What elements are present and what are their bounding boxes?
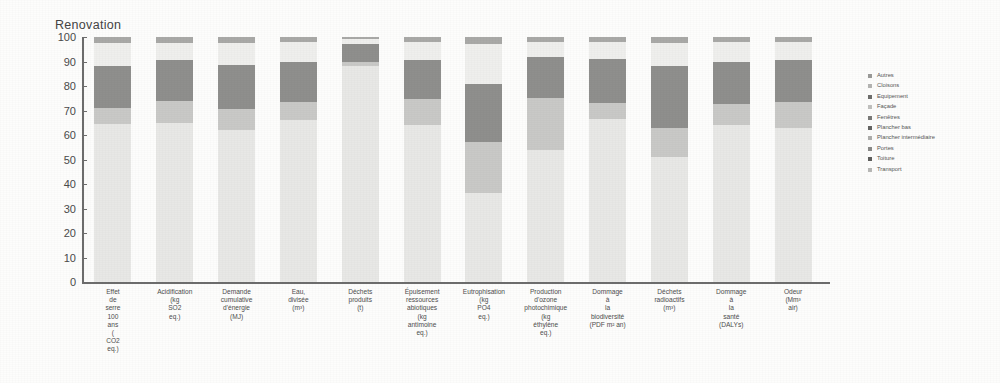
bar-segment — [342, 66, 379, 282]
y-axis-tick-mark — [82, 86, 87, 87]
x-axis-category-label: Acidification(kgSO2eq.) — [144, 288, 206, 321]
bar-segment — [775, 102, 812, 128]
bar-segment — [156, 123, 193, 282]
x-axis-line — [82, 282, 830, 284]
y-axis-tick-mark — [82, 111, 87, 112]
y-axis-tick-mark — [82, 233, 87, 234]
legend-label: Plancher intermédiaire — [877, 134, 935, 141]
y-axis-tick-mark — [82, 209, 87, 210]
x-axis-category-label: Productiond'ozonephotochimique(kgéthylèn… — [515, 288, 577, 337]
bar-slot — [82, 37, 144, 282]
bar-segment — [94, 66, 131, 108]
x-axis-category-label: Dommageàlabiodiversité(PDF m² an) — [577, 288, 639, 329]
y-axis-tick-label: 80 — [42, 80, 76, 92]
y-axis-tick-mark — [82, 62, 87, 63]
bar-segment — [94, 124, 131, 282]
bar-segment — [280, 102, 317, 120]
stacked-bar[interactable] — [342, 37, 379, 282]
stacked-bar[interactable] — [589, 37, 626, 282]
bar-slot — [268, 37, 330, 282]
bar-segment — [156, 43, 193, 60]
legend-item[interactable]: Transport — [868, 166, 996, 173]
bar-segment — [465, 193, 502, 282]
legend-label: Fenêtres — [877, 114, 900, 121]
bar-slot — [206, 37, 268, 282]
legend-swatch-icon — [868, 157, 872, 161]
legend-item[interactable]: Portes — [868, 145, 996, 152]
bar-segment — [156, 101, 193, 123]
x-axis-category-label: Effetdeserre100ans(CO2eq.) — [82, 288, 144, 354]
y-axis-tick-label: 60 — [42, 129, 76, 141]
bar-slot — [577, 37, 639, 282]
bar-segment — [218, 65, 255, 109]
x-axis-category-label: Déchetsproduits(t) — [329, 288, 391, 313]
y-axis-tick-label: 70 — [42, 105, 76, 117]
stacked-bar[interactable] — [527, 37, 564, 282]
bar-segment — [651, 66, 688, 127]
legend-label: Plancher bas — [877, 124, 911, 131]
bar-segment — [527, 150, 564, 282]
y-axis-tick-mark — [82, 282, 87, 283]
x-axis-category-label: Eutrophisation(kgPO4eq.) — [453, 288, 515, 321]
legend-swatch-icon — [868, 136, 872, 140]
stacked-bar[interactable] — [218, 37, 255, 282]
bar-slot — [329, 37, 391, 282]
x-axis-category-label: Odeur(Mm³air) — [762, 288, 824, 313]
bar-segment — [713, 62, 750, 105]
bar-segment — [651, 43, 688, 66]
legend-label: Autres — [877, 72, 894, 79]
legend-label: Cloisons — [877, 82, 899, 89]
bar-segment — [589, 59, 626, 103]
x-axis-category-labels: Effetdeserre100ans(CO2eq.)Acidification(… — [82, 288, 830, 380]
legend-item[interactable]: Fenêtres — [868, 114, 996, 121]
y-axis-tick-label: 10 — [42, 252, 76, 264]
stacked-bar[interactable] — [156, 37, 193, 282]
legend-item[interactable]: Plancher intermédiaire — [868, 134, 996, 141]
y-axis-tick-label: 30 — [42, 203, 76, 215]
chart-title: Renovation — [55, 18, 121, 32]
y-axis-tick-mark — [82, 160, 87, 161]
bar-segment — [527, 57, 564, 99]
stacked-bar[interactable] — [775, 37, 812, 282]
y-axis-tick-labels: 0102030405060708090100 — [40, 37, 76, 282]
legend-item[interactable]: Plancher bas — [868, 124, 996, 131]
bar-segment — [465, 44, 502, 83]
bar-segment — [775, 42, 812, 60]
legend-swatch-icon — [868, 74, 872, 78]
legend-item[interactable]: Cloisons — [868, 82, 996, 89]
bar-segment — [527, 98, 564, 149]
bar-segment — [589, 103, 626, 119]
bar-slot — [762, 37, 824, 282]
y-axis-tick-label: 40 — [42, 178, 76, 190]
stacked-bar[interactable] — [404, 37, 441, 282]
bar-segment — [589, 119, 626, 282]
legend-item[interactable]: Autres — [868, 72, 996, 79]
stacked-bar[interactable] — [94, 37, 131, 282]
bar-segment — [218, 109, 255, 130]
bar-slot — [391, 37, 453, 282]
legend-label: Portes — [877, 145, 894, 152]
bar-segment — [404, 125, 441, 282]
stacked-bar[interactable] — [280, 37, 317, 282]
bar-segment — [713, 104, 750, 125]
y-axis-tick-mark — [82, 37, 87, 38]
legend-item[interactable]: Toiture — [868, 155, 996, 162]
bar-segment — [713, 42, 750, 62]
stacked-bar[interactable] — [651, 37, 688, 282]
legend-swatch-icon — [868, 105, 872, 109]
bar-segment — [404, 99, 441, 125]
legend-item[interactable]: Equipement — [868, 93, 996, 100]
legend-item[interactable]: Façade — [868, 103, 996, 110]
legend-swatch-icon — [868, 147, 872, 151]
y-axis-tick-mark — [82, 184, 87, 185]
bar-segment — [94, 43, 131, 66]
legend-label: Transport — [877, 166, 902, 173]
stacked-bar[interactable] — [713, 37, 750, 282]
legend-label: Equipement — [877, 93, 908, 100]
x-axis-category-label: Demandecumulatived'énergie(MJ) — [206, 288, 268, 321]
y-axis-tick-mark — [82, 135, 87, 136]
stacked-bar[interactable] — [465, 37, 502, 282]
y-axis-tick-label: 50 — [42, 154, 76, 166]
legend-label: Façade — [877, 103, 896, 110]
bar-slot — [700, 37, 762, 282]
